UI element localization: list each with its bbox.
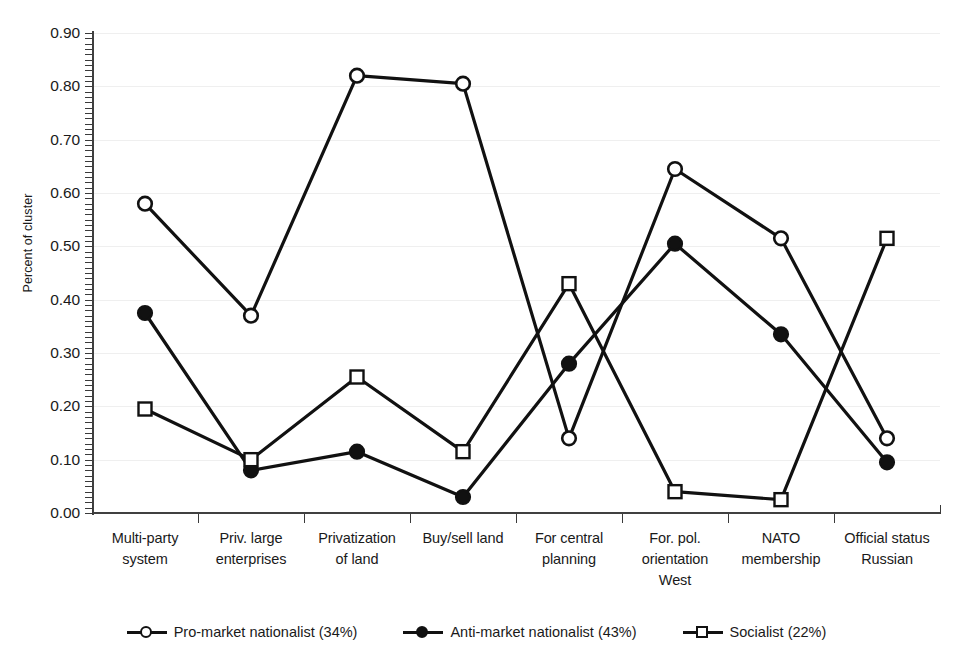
legend-item-2[interactable]: Socialist (22%) bbox=[683, 624, 827, 640]
x-axis-label-line: membership bbox=[728, 549, 834, 570]
y-axis-minor-tick bbox=[85, 460, 92, 461]
legend-label: Socialist (22%) bbox=[730, 624, 827, 640]
y-axis-minor-tick bbox=[85, 273, 92, 274]
y-axis-minor-tick bbox=[85, 396, 92, 397]
data-point bbox=[245, 453, 258, 466]
x-axis-label-line: Priv. large bbox=[198, 528, 304, 549]
y-axis-minor-tick bbox=[85, 380, 92, 381]
x-axis-tick-label: For centralplanning bbox=[516, 528, 622, 570]
y-axis-minor-tick bbox=[85, 49, 92, 50]
y-axis-minor-tick bbox=[85, 385, 92, 386]
y-axis-minor-tick bbox=[85, 508, 92, 509]
data-point bbox=[880, 456, 894, 470]
y-axis-minor-tick bbox=[85, 289, 92, 290]
data-point bbox=[138, 197, 152, 211]
y-axis-minor-tick bbox=[85, 129, 92, 130]
x-axis-label-line: Privatization bbox=[304, 528, 410, 549]
y-axis-minor-tick bbox=[85, 433, 92, 434]
y-axis-minor-tick bbox=[85, 33, 92, 34]
x-axis-tick bbox=[834, 514, 835, 523]
data-point bbox=[562, 432, 576, 446]
y-axis-minor-tick bbox=[85, 497, 92, 498]
y-axis-minor-tick bbox=[85, 321, 92, 322]
y-axis-minor-tick bbox=[85, 374, 92, 375]
y-axis-minor-tick bbox=[85, 198, 92, 199]
x-axis-label-line: planning bbox=[516, 549, 622, 570]
y-axis-minor-tick bbox=[85, 412, 92, 413]
data-point bbox=[456, 77, 470, 91]
x-axis-tick-label: NATOmembership bbox=[728, 528, 834, 570]
y-axis-minor-tick bbox=[85, 348, 92, 349]
y-axis-minor-tick bbox=[85, 252, 92, 253]
open-circle-icon bbox=[140, 626, 152, 638]
y-axis-minor-tick bbox=[85, 262, 92, 263]
y-axis-minor-tick bbox=[85, 60, 92, 61]
y-axis-minor-tick bbox=[85, 102, 92, 103]
data-point bbox=[351, 371, 364, 384]
y-axis-minor-tick bbox=[85, 454, 92, 455]
x-axis-label-line: of land bbox=[304, 549, 410, 570]
legend-marker-icon bbox=[127, 624, 167, 640]
y-axis-minor-tick bbox=[85, 161, 92, 162]
y-axis-minor-tick bbox=[85, 156, 92, 157]
y-axis-minor-tick bbox=[85, 182, 92, 183]
legend-item-1[interactable]: Anti-market nationalist (43%) bbox=[403, 624, 636, 640]
y-axis-minor-tick bbox=[85, 332, 92, 333]
y-axis-minor-tick bbox=[85, 470, 92, 471]
data-point bbox=[457, 445, 470, 458]
y-axis-minor-tick bbox=[85, 236, 92, 237]
legend-marker-icon bbox=[403, 624, 443, 640]
y-axis-minor-tick bbox=[85, 193, 92, 194]
x-axis-tick bbox=[516, 514, 517, 523]
x-axis-tick-label: Priv. largeenterprises bbox=[198, 528, 304, 570]
x-axis-label-line: NATO bbox=[728, 528, 834, 549]
data-point bbox=[668, 162, 682, 176]
y-axis-minor-tick bbox=[85, 145, 92, 146]
y-axis-minor-tick bbox=[85, 284, 92, 285]
x-axis-tick-label: Official statusRussian bbox=[834, 528, 940, 570]
y-axis-minor-tick bbox=[85, 353, 92, 354]
y-axis-minor-tick bbox=[85, 188, 92, 189]
chart-legend: Pro-market nationalist (34%)Anti-market … bbox=[0, 624, 953, 640]
y-axis-minor-tick bbox=[85, 310, 92, 311]
x-axis-label-line: Russian bbox=[834, 549, 940, 570]
y-axis-minor-tick bbox=[85, 220, 92, 221]
filled-circle-icon bbox=[416, 626, 428, 638]
data-point bbox=[880, 432, 894, 446]
x-axis-tick bbox=[198, 514, 199, 523]
y-axis-minor-tick bbox=[85, 417, 92, 418]
data-point bbox=[668, 237, 682, 251]
x-axis-tick bbox=[92, 505, 93, 514]
y-axis-minor-tick bbox=[85, 124, 92, 125]
y-axis-minor-tick bbox=[85, 70, 92, 71]
x-axis-label-line: For central bbox=[516, 528, 622, 549]
y-axis-minor-tick bbox=[85, 140, 92, 141]
legend-item-0[interactable]: Pro-market nationalist (34%) bbox=[127, 624, 358, 640]
y-axis-minor-tick bbox=[85, 97, 92, 98]
y-axis-minor-tick bbox=[85, 113, 92, 114]
x-axis-tick bbox=[728, 514, 729, 523]
data-point bbox=[139, 403, 152, 416]
y-axis-minor-tick bbox=[85, 246, 92, 247]
y-axis-minor-tick bbox=[85, 108, 92, 109]
y-axis-minor-tick bbox=[85, 241, 92, 242]
series-0 bbox=[145, 76, 887, 439]
y-axis-minor-tick bbox=[85, 76, 92, 77]
y-axis-minor-tick bbox=[85, 177, 92, 178]
y-axis-minor-tick bbox=[85, 214, 92, 215]
y-axis-minor-tick bbox=[85, 438, 92, 439]
y-axis-minor-tick bbox=[85, 444, 92, 445]
y-axis-minor-tick bbox=[85, 257, 92, 258]
data-point bbox=[775, 493, 788, 506]
x-axis-label-line: Multi-party bbox=[92, 528, 198, 549]
legend-label: Pro-market nationalist (34%) bbox=[174, 624, 358, 640]
y-axis-minor-tick bbox=[85, 225, 92, 226]
data-point bbox=[774, 328, 788, 342]
y-axis-minor-tick bbox=[85, 449, 92, 450]
y-axis-minor-tick bbox=[85, 278, 92, 279]
y-axis-minor-tick bbox=[85, 300, 92, 301]
x-axis-tick bbox=[622, 514, 623, 523]
y-axis-minor-tick bbox=[85, 316, 92, 317]
legend-marker-icon bbox=[683, 624, 723, 640]
y-axis-minor-tick bbox=[85, 172, 92, 173]
